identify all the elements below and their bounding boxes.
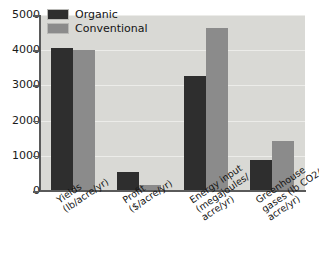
y-axis-tick-mark <box>33 85 39 87</box>
bar-chart: 010002000300040005000 Organic Convention… <box>0 0 319 260</box>
legend-item-conventional: Conventional <box>47 23 148 34</box>
bar-organic-0 <box>51 48 73 191</box>
plot-area <box>40 15 305 191</box>
chart-legend: Organic Conventional <box>47 9 148 34</box>
bar-conventional-2 <box>206 28 228 191</box>
legend-label-conventional: Conventional <box>75 23 148 34</box>
bar-conventional-0 <box>73 50 95 191</box>
y-axis-tick-mark <box>33 156 39 158</box>
legend-swatch-conventional <box>47 23 69 34</box>
y-axis-tick-mark <box>33 15 39 17</box>
x-axis-labels: Yields(lb/acre/yr)Profit($/acre/yr)Energ… <box>0 191 319 260</box>
legend-label-organic: Organic <box>75 9 118 20</box>
legend-swatch-organic <box>47 9 69 20</box>
legend-item-organic: Organic <box>47 9 148 20</box>
y-axis-tick-mark <box>33 50 39 52</box>
bar-organic-2 <box>184 76 206 191</box>
y-axis-tick-mark <box>33 121 39 123</box>
